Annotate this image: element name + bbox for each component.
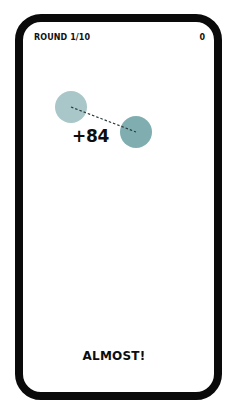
round-counter: ROUND 1/10	[34, 33, 90, 42]
score-display: 0	[199, 33, 205, 42]
phone-frame	[15, 14, 222, 400]
target-circle	[55, 91, 87, 123]
points-awarded: +84	[72, 126, 109, 146]
guess-circle	[120, 116, 152, 148]
feedback-message: ALMOST!	[0, 349, 228, 363]
game-stage: ROUND 1/10 0 +84 ALMOST!	[0, 0, 228, 408]
